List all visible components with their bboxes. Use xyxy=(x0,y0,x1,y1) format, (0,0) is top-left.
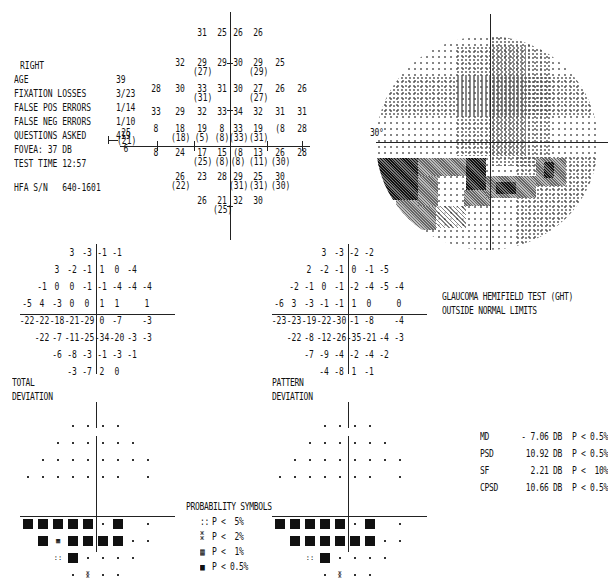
normal-point xyxy=(42,459,44,461)
normal-point xyxy=(369,442,371,444)
total-deviation-values: 3-3-1-13-2-110-4-100-1-1-4-4-4-54-300111… xyxy=(20,244,180,374)
index-name: MD xyxy=(480,432,510,444)
normal-point xyxy=(102,459,104,461)
normal-point xyxy=(339,425,341,427)
normal-point xyxy=(132,557,134,559)
normal-point xyxy=(147,476,149,478)
normal-point xyxy=(72,459,74,461)
normal-point xyxy=(399,459,401,461)
normal-point xyxy=(102,574,104,576)
normal-point xyxy=(309,442,311,444)
normal-point xyxy=(117,459,119,461)
threshold-value: 32 xyxy=(230,196,246,206)
p-0.5-symbol xyxy=(290,536,300,546)
normal-point xyxy=(72,442,74,444)
threshold-value: 33 xyxy=(214,107,230,117)
greyscale-plot: 30° xyxy=(376,14,608,250)
normal-point xyxy=(294,459,296,461)
probability-symbol: :: xyxy=(304,553,316,563)
threshold-fluctuation: (33) xyxy=(229,133,247,143)
normal-point xyxy=(147,523,149,525)
normal-point xyxy=(339,476,341,478)
threshold-value: 31 xyxy=(214,84,230,94)
threshold-fluctuation: (31) xyxy=(249,181,267,191)
ght-result: GLAUCOMA HEMIFIELD TEST (GHT) OUTSIDE NO… xyxy=(442,292,573,316)
normal-point xyxy=(369,459,371,461)
threshold-value: 26 xyxy=(194,196,210,206)
threshold-value: 23 xyxy=(194,172,210,182)
p-0.5-symbol xyxy=(68,519,78,529)
threshold-value: (8 xyxy=(272,124,288,134)
normal-point xyxy=(354,557,356,559)
normal-point xyxy=(339,557,341,559)
total-deviation-title: TOTAL DEVIATION xyxy=(12,378,53,402)
greyscale-vertical-axis xyxy=(490,14,491,250)
threshold-value: 8 xyxy=(148,148,164,158)
greyscale-degree-label: 30° xyxy=(370,128,384,140)
normal-point xyxy=(309,476,311,478)
normal-point xyxy=(147,459,149,461)
threshold-value: 30 xyxy=(250,196,266,206)
p-0.5-symbol xyxy=(335,519,345,529)
legend-symbol-icon: ▦ xyxy=(200,547,212,559)
p-0.5-symbol xyxy=(113,519,123,529)
deviation-value: 0 xyxy=(390,299,408,309)
normal-point xyxy=(102,557,104,559)
deviation-value: 1 xyxy=(138,299,156,309)
legend-symbol-icon: ■ xyxy=(200,562,212,574)
deviation-value: -4 xyxy=(123,265,141,275)
normal-point xyxy=(57,476,59,478)
normal-point xyxy=(132,442,134,444)
normal-point xyxy=(339,442,341,444)
probability-symbol: ⁑ xyxy=(334,570,346,580)
normal-point xyxy=(117,425,119,427)
normal-point xyxy=(399,523,401,525)
normal-point xyxy=(324,442,326,444)
threshold-value: 28 xyxy=(294,148,310,158)
normal-point xyxy=(72,476,74,478)
normal-point xyxy=(117,442,119,444)
ght-line2: OUTSIDE NORMAL LIMITS xyxy=(442,306,573,318)
probability-symbol: ⁑ xyxy=(82,570,94,580)
normal-point xyxy=(27,476,29,478)
deviation-value: -3 xyxy=(390,333,408,343)
probability-legend: PROBABILITY SYMBOLS ::P < 5%⁑P < 2%▦P < … xyxy=(186,502,272,577)
p-0.5-symbol xyxy=(38,519,48,529)
legend-label: P < 1% xyxy=(212,547,244,558)
normal-point xyxy=(102,476,104,478)
index-name: SF xyxy=(480,466,510,478)
p-0.5-symbol xyxy=(83,519,93,529)
index-value: 10.92 DB xyxy=(510,449,562,461)
deviation-value: -8 xyxy=(360,316,378,326)
deviation-value: -5 xyxy=(375,265,393,275)
normal-point xyxy=(369,425,371,427)
probability-symbol: :: xyxy=(52,553,64,563)
deviation-value: -4 xyxy=(138,282,156,292)
threshold-map: 25 (21) 6 312526263229(27)293029(29)2528… xyxy=(0,0,360,250)
p-0.5-symbol xyxy=(38,536,48,546)
threshold-fluctuation: (27) xyxy=(193,67,211,77)
legend-symbol-icon: ⁑ xyxy=(200,532,212,544)
threshold-value: 33 xyxy=(148,107,164,117)
global-indices: MD- 7.06 DBP < 0.5%PSD10.92 DBP < 0.5%SF… xyxy=(480,432,608,500)
threshold-value: 26 xyxy=(294,84,310,94)
normal-point xyxy=(354,425,356,427)
normal-point xyxy=(102,523,104,525)
deviation-value: -2 xyxy=(375,350,393,360)
deviation-value: -3 xyxy=(138,333,156,343)
index-p: P < 0.5% xyxy=(572,483,608,494)
index-name: CPSD xyxy=(480,483,510,495)
index-p: P < 10% xyxy=(572,466,608,477)
normal-point xyxy=(87,425,89,427)
normal-point xyxy=(102,442,104,444)
p-0.5-symbol xyxy=(365,519,375,529)
legend-label: P < 5% xyxy=(212,517,244,528)
greyscale-field xyxy=(376,36,598,250)
p-0.5-symbol xyxy=(68,553,78,563)
deviation-value: 0 xyxy=(360,299,378,309)
threshold-value: 26 xyxy=(272,84,288,94)
p-0.5-symbol xyxy=(113,536,123,546)
threshold-fluctuation: (31) xyxy=(249,133,267,143)
normal-point xyxy=(399,476,401,478)
normal-point xyxy=(324,459,326,461)
